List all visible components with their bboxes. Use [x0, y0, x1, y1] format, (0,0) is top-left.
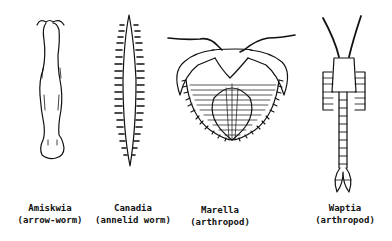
specimen-name: Amiskwia [17, 202, 82, 214]
label-amiskwia: Amiskwia (arrow-worm) [17, 202, 82, 226]
marella-drawing [168, 35, 295, 141]
specimen-group: (arrow-worm) [17, 214, 82, 226]
amiskwia-drawing [37, 21, 64, 159]
label-marella: Marella (arthropod) [190, 204, 250, 228]
specimen-group: (arthropod) [315, 214, 375, 226]
label-waptia: Waptia (arthropod) [315, 202, 375, 226]
specimen-group: (annelid worm) [95, 214, 171, 226]
specimen-name: Marella [190, 204, 250, 216]
label-canadia: Canadia (annelid worm) [95, 202, 171, 226]
specimen-group: (arthropod) [190, 216, 250, 228]
specimen-name: Waptia [315, 202, 375, 214]
waptia-drawing [323, 16, 365, 192]
canadia-drawing [115, 15, 144, 166]
specimen-name: Canadia [95, 202, 171, 214]
